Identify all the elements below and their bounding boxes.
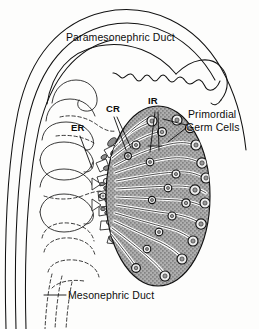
label-ir: IR [148,95,158,106]
label-primordial-germ-cells-line1: Primordial [188,108,236,120]
diagram-canvas: Paramesonephric Duct Mesonephric Duct Pr… [0,0,259,329]
paramesonephric-duct-fold [47,44,227,104]
label-er: ER [71,122,85,133]
label-paramesonephric-duct: Paramesonephric Duct [66,31,175,43]
label-cr: CR [106,103,120,114]
label-primordial-germ-cells-line2: Germ Cells [186,121,240,133]
anatomical-diagram: Paramesonephric Duct Mesonephric Duct Pr… [0,0,259,329]
leader-er [80,136,92,168]
label-mesonephric-duct: Mesonephric Duct [68,289,154,301]
